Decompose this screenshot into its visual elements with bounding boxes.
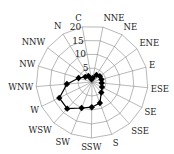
direction-label-ssw: SSW (81, 142, 101, 152)
direction-label-nnw: NNW (22, 37, 46, 47)
direction-label-ese: ESE (151, 84, 169, 94)
direction-label-w: W (30, 105, 39, 115)
data-point-nw (75, 75, 81, 81)
direction-label-wsw: WSW (29, 125, 53, 135)
radial-tick-20: 20 (70, 22, 82, 32)
direction-label-wnw: WNW (8, 82, 33, 92)
radial-tick-15: 15 (72, 36, 84, 46)
direction-label-s: S (113, 138, 119, 148)
direction-label-e: E (149, 60, 155, 70)
direction-label-nw: NW (19, 59, 35, 69)
polar-grid (36, 27, 148, 138)
radial-tick-5: 5 (83, 63, 89, 73)
grid-spoke (54, 82, 92, 123)
direction-label-sw: SW (56, 137, 71, 147)
direction-label-se: SE (145, 107, 157, 117)
direction-label-n: N (54, 21, 62, 31)
direction-label-sse: SSE (131, 126, 149, 136)
direction-label-ene: ENE (139, 38, 159, 48)
direction-label-c: C (75, 13, 82, 23)
direction-label-ne: NE (124, 22, 138, 32)
data-point-se (99, 84, 105, 90)
wind-rose-svg: 5101520 CNNENEENEEESESESSESSSWSWWSWWWNWN… (0, 0, 174, 154)
radial-tick-10: 10 (75, 49, 87, 59)
wind-rose-chart: 5101520 CNNENEENEEESESESSESSSWSWWSWWWNWN… (0, 0, 174, 154)
data-point-s (97, 100, 103, 106)
data-point-sw (78, 105, 84, 111)
direction-label-nne: NNE (103, 13, 124, 23)
